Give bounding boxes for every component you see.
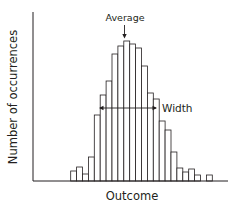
- histogram-bar: [94, 115, 100, 181]
- histogram-bar: [159, 121, 165, 181]
- histogram-bar: [83, 174, 89, 181]
- histogram-bar: [183, 172, 189, 181]
- histogram-bar: [142, 66, 148, 181]
- average-arrow-icon: [122, 25, 126, 39]
- histogram-bar: [189, 169, 195, 181]
- histogram-bar: [71, 171, 77, 181]
- histogram-chart: [0, 0, 241, 214]
- x-axis-label: Outcome: [106, 189, 159, 203]
- histogram-bar: [106, 81, 112, 181]
- histogram-bar: [130, 44, 136, 181]
- average-annotation: Average: [105, 12, 144, 23]
- histogram-bar: [112, 54, 118, 181]
- histogram-bar: [165, 130, 171, 181]
- histogram-bar: [124, 41, 130, 181]
- histogram-bar: [136, 48, 142, 181]
- histogram-bar: [153, 99, 159, 181]
- histogram-bar: [171, 152, 177, 181]
- histogram-bar: [206, 175, 212, 181]
- histogram-bar: [195, 175, 201, 181]
- histogram-bar: [77, 167, 83, 181]
- histogram-bar: [147, 93, 153, 181]
- y-axis-label: Number of occurrences: [6, 30, 20, 164]
- width-annotation: Width: [162, 102, 193, 114]
- histogram-bar: [118, 46, 124, 181]
- histogram-bar: [177, 168, 183, 181]
- histogram-bar: [88, 157, 94, 181]
